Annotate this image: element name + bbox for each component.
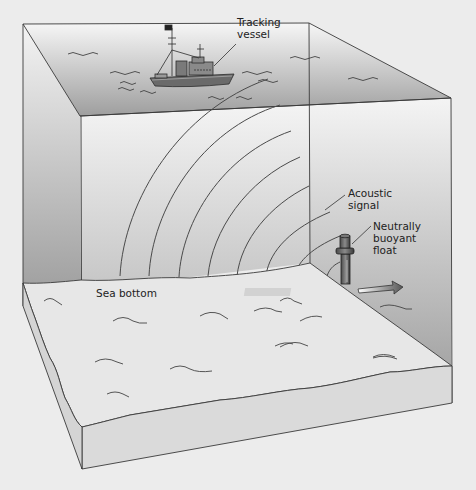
- acoustic-signal-label: Acoustic signal: [348, 187, 392, 211]
- ocean-float-diagram: Tracking vessel Acoustic signal Neutrall…: [0, 0, 476, 490]
- float-shadow: [244, 288, 291, 296]
- tracking-vessel-label: Tracking vessel: [237, 16, 281, 40]
- neutrally-buoyant-float-label: Neutrally buoyant float: [373, 220, 421, 256]
- sea-bottom-label: Sea bottom: [96, 287, 157, 299]
